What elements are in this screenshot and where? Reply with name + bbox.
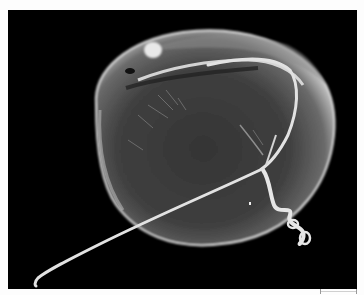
dinoflagellate-illustration: [8, 10, 357, 289]
scale-bar-left-tick: [320, 289, 321, 294]
scale-bar: [320, 291, 357, 292]
image-frame: [0, 0, 364, 295]
apical-process: [144, 42, 162, 58]
scale-bar-right-tick: [356, 289, 357, 294]
sem-micrograph: [8, 10, 357, 289]
